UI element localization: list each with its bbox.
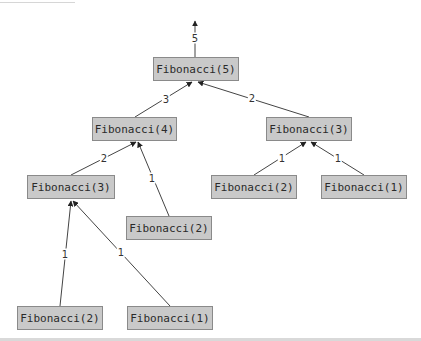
node-fibonacci-4: Fibonacci(4): [92, 117, 177, 141]
node-fibonacci-1-right: Fibonacci(1): [321, 175, 407, 199]
edge-label-result: 5: [191, 33, 199, 44]
edges-layer: [0, 0, 421, 341]
node-fibonacci-3-left: Fibonacci(3): [27, 175, 115, 199]
node-fibonacci-1-bottom: Fibonacci(1): [127, 306, 213, 330]
edge-label-fib2r-fib3r: 1: [278, 153, 286, 164]
node-fibonacci-2-middle: Fibonacci(2): [126, 216, 212, 240]
edge-label-fib1r-fib3r: 1: [334, 153, 342, 164]
edge-label-fib1b-fib3l: 1: [117, 247, 125, 258]
node-fibonacci-2-right: Fibonacci(2): [211, 175, 297, 199]
edge-label-fib4-fib5: 3: [162, 94, 170, 105]
node-fibonacci-3-right: Fibonacci(3): [266, 117, 352, 141]
fibonacci-recursion-diagram: 5 3 2 2 1 1 1 1 1 Fibonacci(5) Fibonacci…: [0, 0, 421, 341]
edge-label-fib3r-fib5: 2: [248, 93, 256, 104]
edge-label-fib3l-fib4: 2: [100, 153, 108, 164]
node-fibonacci-2-bottom: Fibonacci(2): [17, 306, 103, 330]
node-fibonacci-5: Fibonacci(5): [153, 57, 239, 81]
edge-label-fib2m-fib4: 1: [148, 173, 156, 184]
edge-label-fib2b-fib3l: 1: [61, 249, 69, 260]
